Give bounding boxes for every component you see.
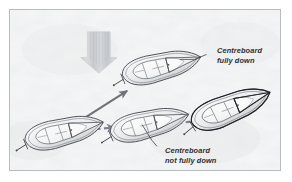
label-not-fully-down-line1: Centreboard xyxy=(165,146,216,156)
label-centreboard-fully-down: Centreboard fully down xyxy=(217,46,262,65)
label-not-fully-down-line2: not fully down xyxy=(165,156,216,166)
illustration-plate: Centreboard fully down Centreboard not f… xyxy=(9,9,281,171)
label-fully-down-line1: Centreboard xyxy=(217,46,262,56)
label-centreboard-not-fully-down: Centreboard not fully down xyxy=(165,146,216,165)
figure-container: Centreboard fully down Centreboard not f… xyxy=(0,0,292,182)
illustration-svg xyxy=(10,10,280,170)
label-fully-down-line2: fully down xyxy=(217,56,262,66)
